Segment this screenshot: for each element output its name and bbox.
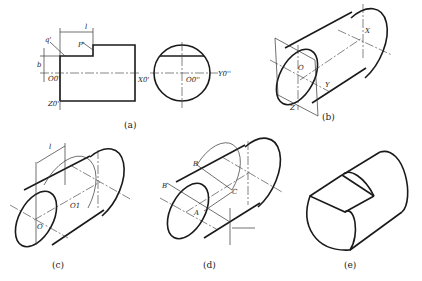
label-x: X [364,27,371,35]
label-y0: Y0'' [218,70,231,78]
caption-c: (c) [52,260,64,270]
panel-c-cylinder [7,143,132,253]
label-x0: X0' [137,76,149,84]
label-q: q' [45,36,51,44]
panel-a-side-view [150,42,218,108]
label-z0: Z0' [47,100,59,108]
panel-b-cylinder [268,4,392,116]
label-o1-c: O1 [70,202,80,210]
label-a-d: A [193,209,199,217]
label-o0-side: O0'' [186,76,200,84]
caption-a: (a) [124,120,136,130]
label-p: P' [77,41,85,49]
panel-a-front-view [40,28,140,110]
label-z: Z [289,104,295,112]
label-b-d1: B [161,182,167,190]
panel-d-cylinder [159,138,282,245]
label-o: O [298,64,304,72]
engineering-figure: l q' P' b O0' X0' Z0' O0'' Y0'' (a) O X … [0,0,422,281]
label-b-d2: B [192,160,198,168]
label-y: Y [325,81,331,89]
label-c-d: C [232,188,238,196]
label-o-c: O [37,223,43,231]
panel-e-solid [307,151,408,250]
label-b: b [37,61,42,69]
label-o0: O0' [48,75,60,83]
caption-e: (e) [344,260,356,270]
label-l: l [85,23,87,31]
label-l-c: l [49,143,51,151]
caption-b: (b) [322,112,335,122]
caption-d: (d) [203,260,216,270]
